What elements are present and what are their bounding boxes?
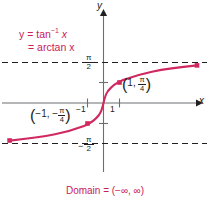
y-axis-label: y [97,1,102,11]
fraction-pi-over-4: π 4 [138,76,145,92]
y-tick-label-pi-over-2: π 2 [84,54,94,71]
function-equation-line-2: = arctan x [28,42,74,53]
point-label-neg1-neg-pi-over-4: (−1, − π 4 ) [30,107,71,124]
x-axis-label: x [199,96,204,106]
y-tick-label-neg-pi-over-2: − π 2 [84,136,94,153]
point-marker-neg1-neg-pi-over-4 [85,121,90,126]
x-tick-label-1: 1 [110,105,115,114]
point-label-1-pi-over-4: (1, π 4 ) [122,76,151,93]
curve-endpoint-right-marker [195,63,200,68]
x-tick-label-neg-1: −1 [76,105,86,114]
function-equation-line-1: y = tan−1 x [19,27,74,39]
arctan-graph-figure: y = tan−1 x = arctan x π 2 − π 2 (1, π 4… [0,0,210,200]
domain-caption: Domain = (−∞, ∞) [0,186,210,196]
function-equation-label: y = tan−1 x = arctan x [19,27,74,52]
curve-endpoint-left-marker [7,138,12,143]
